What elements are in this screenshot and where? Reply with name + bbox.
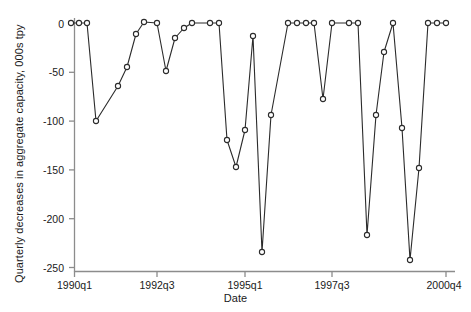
- data-point-marker: [189, 20, 194, 25]
- data-point-marker: [68, 20, 73, 25]
- y-tick-label-3: -150: [18, 164, 64, 176]
- data-point-marker: [329, 20, 334, 25]
- data-point-marker: [207, 20, 212, 25]
- data-point-marker: [224, 137, 229, 142]
- y-tick-label-1: -50: [18, 66, 64, 78]
- data-point-marker: [250, 33, 255, 38]
- y-axis-ticks: [69, 24, 75, 268]
- data-point-marker: [115, 83, 120, 88]
- data-point-marker: [416, 165, 421, 170]
- data-point-marker: [373, 112, 378, 117]
- data-point-marker: [172, 35, 177, 40]
- data-point-marker: [216, 20, 221, 25]
- data-point-marker: [320, 96, 325, 101]
- data-point-marker: [154, 20, 159, 25]
- data-point-marker: [294, 20, 299, 25]
- axes: [69, 18, 455, 277]
- data-point-marker: [407, 257, 412, 262]
- data-point-marker: [76, 20, 81, 25]
- data-point-marker: [133, 31, 138, 36]
- data-point-marker: [141, 19, 146, 24]
- data-point-marker: [124, 64, 129, 69]
- data-point-marker: [355, 20, 360, 25]
- data-point-marker: [381, 49, 386, 54]
- x-tick-label-2: 1995q1: [227, 279, 262, 291]
- x-tick-label-3: 1997q3: [314, 279, 349, 291]
- y-axis-title: Quarterly decreases in aggregate capacit…: [13, 24, 25, 283]
- y-tick-label-0: 0: [18, 18, 64, 30]
- x-axis-ticks: [75, 272, 447, 278]
- data-point-marker: [311, 20, 316, 25]
- data-point-marker: [399, 125, 404, 130]
- line-chart-plot: [0, 0, 471, 312]
- data-point-marker: [93, 118, 98, 123]
- x-tick-label-4: 2000q4: [426, 279, 461, 291]
- data-point-marker: [364, 232, 369, 237]
- series-line: [71, 22, 446, 260]
- x-tick-label-0: 1990q1: [57, 279, 92, 291]
- y-tick-label-2: -100: [18, 115, 64, 127]
- data-point-marker: [242, 127, 247, 132]
- data-point-marker: [259, 249, 264, 254]
- data-point-marker: [181, 25, 186, 30]
- data-point-marker: [268, 112, 273, 117]
- data-point-marker: [346, 20, 351, 25]
- data-point-marker: [285, 20, 290, 25]
- chart-container: Quarterly decreases in aggregate capacit…: [0, 0, 471, 312]
- y-tick-label-4: -200: [18, 213, 64, 225]
- data-point-marker: [434, 20, 439, 25]
- data-point-marker: [443, 20, 448, 25]
- x-tick-label-1: 1992q3: [139, 279, 174, 291]
- data-point-marker: [84, 20, 89, 25]
- series-markers: [68, 19, 448, 262]
- x-axis-title: Date: [0, 292, 471, 304]
- data-point-marker: [303, 20, 308, 25]
- data-point-marker: [233, 164, 238, 169]
- data-point-marker: [390, 20, 395, 25]
- data-point-marker: [425, 20, 430, 25]
- data-point-marker: [163, 68, 168, 73]
- y-tick-label-5: -250: [18, 262, 64, 274]
- data-series: [68, 19, 448, 262]
